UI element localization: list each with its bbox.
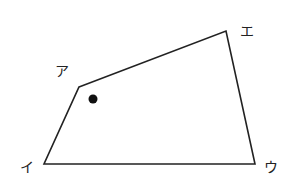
- interior-dot: [89, 95, 98, 104]
- quadrilateral-shape: [44, 31, 255, 164]
- quadrilateral-diagram: ア エ ウ イ: [0, 0, 291, 190]
- vertex-label-a: ア: [55, 63, 69, 79]
- vertex-label-u: ウ: [264, 159, 278, 175]
- vertex-label-e: エ: [240, 23, 254, 39]
- vertex-label-i: イ: [20, 159, 34, 175]
